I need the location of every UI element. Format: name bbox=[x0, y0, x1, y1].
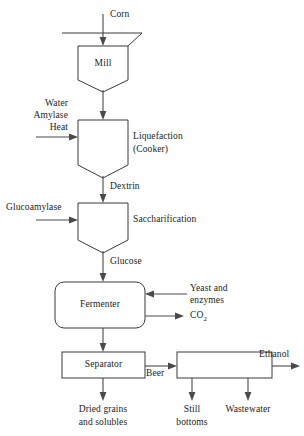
stream-label-glucose: Glucose bbox=[110, 256, 142, 268]
stream-label-dextrin: Dextrin bbox=[110, 181, 140, 193]
stream-label-corn: Corn bbox=[110, 9, 129, 21]
yeast-enzymes-inlet-arrow bbox=[145, 291, 187, 298]
stream-label-dried-grains-line2: and solubles bbox=[58, 417, 148, 429]
water-amylase-heat-inlet-arrow bbox=[36, 134, 78, 141]
unit-label-separator: Separator bbox=[62, 359, 145, 371]
stream-label-wastewater: Wastewater bbox=[216, 404, 280, 416]
co2-subscript: 2 bbox=[203, 315, 207, 323]
stream-label-beer: Beer bbox=[146, 368, 164, 380]
distillation-unit-shape bbox=[177, 352, 272, 378]
stream-label-still-line1: Still bbox=[170, 404, 214, 416]
unit-label-liquefaction-cooker: (Cooker) bbox=[133, 144, 168, 156]
dextrin-stream-arrow bbox=[100, 176, 107, 203]
corn-inlet-arrow bbox=[100, 14, 107, 46]
dried-grains-outlet-arrow bbox=[100, 378, 107, 401]
stream-label-still-line2: bottoms bbox=[170, 417, 214, 429]
co2-outlet-arrow bbox=[145, 313, 184, 320]
stream-label-ethanol: Ethanol bbox=[259, 349, 289, 361]
glucoamylase-inlet-arrow bbox=[36, 217, 78, 224]
stream-label-water: Water bbox=[14, 98, 68, 110]
liquefaction-unit-shape bbox=[78, 120, 128, 178]
unit-label-fermenter: Fermenter bbox=[60, 299, 140, 311]
stream-label-dried-grains-line1: Dried grains bbox=[58, 404, 148, 416]
saccharification-unit-shape bbox=[78, 203, 128, 253]
fermenter-to-separator-arrow bbox=[100, 328, 107, 352]
stream-label-amylase: Amylase bbox=[14, 110, 68, 122]
stream-label-glucoamylase: Glucoamylase bbox=[6, 202, 62, 214]
unit-label-liquefaction: Liquefaction bbox=[133, 131, 183, 143]
stream-label-yeast-line1: Yeast and bbox=[190, 283, 228, 295]
process-flow-diagram: Corn Mill Water Amylase Heat Liquefactio… bbox=[0, 0, 304, 436]
ethanol-outlet-arrow bbox=[272, 363, 300, 370]
glucose-stream-arrow bbox=[100, 251, 107, 282]
stream-label-co2: CO2 bbox=[190, 310, 207, 325]
still-bottoms-outlet-arrow bbox=[189, 378, 196, 401]
co2-formula-text: CO bbox=[190, 310, 203, 320]
wastewater-outlet-arrow bbox=[245, 378, 252, 401]
unit-label-saccharification: Saccharification bbox=[133, 214, 196, 226]
stream-label-heat: Heat bbox=[14, 122, 68, 134]
stream-label-yeast-line2: enzymes bbox=[190, 295, 224, 307]
mill-to-liquefaction-arrow bbox=[100, 90, 107, 120]
unit-label-mill: Mill bbox=[78, 58, 128, 70]
